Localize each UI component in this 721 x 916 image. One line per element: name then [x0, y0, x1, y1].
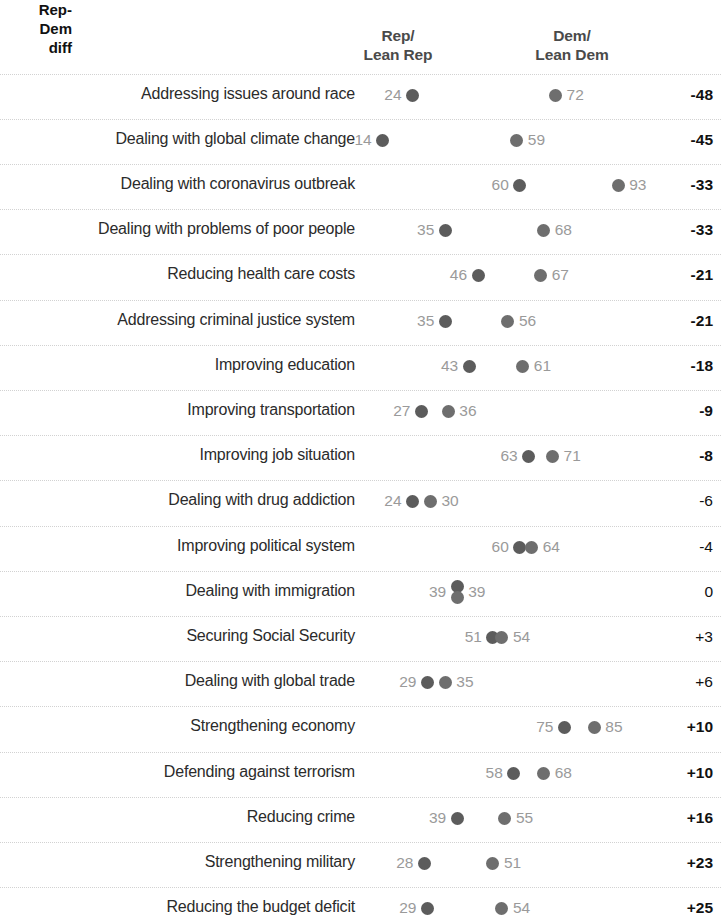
row-plot: 4667 — [0, 254, 640, 299]
value-label-dem: 59 — [528, 131, 545, 149]
diff-value: -45 — [641, 131, 713, 149]
value-label-rep: 14 — [0, 131, 372, 149]
dot-dem — [424, 495, 437, 508]
row-plot: 6371 — [0, 435, 640, 480]
value-label-dem: 39 — [468, 583, 485, 601]
diff-value: +25 — [641, 899, 713, 916]
diff-value: -33 — [641, 221, 713, 239]
value-label-rep: 24 — [0, 492, 402, 510]
row-plot: 2851 — [0, 842, 640, 887]
column-header-diff-line1: Rep- — [0, 0, 72, 19]
diff-value: -8 — [641, 447, 713, 465]
diff-value: +10 — [641, 718, 713, 736]
dot-dem — [525, 541, 538, 554]
dot-rep — [472, 269, 485, 282]
row-plot: 5154 — [0, 616, 640, 661]
diff-value: +16 — [641, 809, 713, 827]
value-label-dem: 72 — [567, 86, 584, 104]
value-label-rep: 39 — [0, 583, 446, 601]
column-header-dem-line1: Dem/ — [553, 27, 591, 44]
value-label-dem: 67 — [552, 266, 569, 284]
diff-value: -21 — [641, 312, 713, 330]
value-label-dem: 54 — [513, 628, 530, 646]
value-label-rep: 75 — [0, 718, 554, 736]
dot-rep — [421, 676, 434, 689]
diff-value: -48 — [641, 86, 713, 104]
value-label-dem: 68 — [555, 764, 572, 782]
diff-value: 0 — [641, 583, 713, 601]
value-label-rep: 24 — [0, 86, 402, 104]
dot-dem — [549, 89, 562, 102]
value-label-dem: 68 — [555, 221, 572, 239]
chart-row: Dealing with immigration39390 — [0, 571, 721, 616]
column-header-dem-line2: Lean Dem — [507, 45, 637, 64]
diff-value: -33 — [641, 176, 713, 194]
dot-dem — [546, 450, 559, 463]
value-label-rep: 46 — [0, 266, 467, 284]
diff-value: +6 — [641, 673, 713, 691]
chart-row: Strengthening military2851+23 — [0, 842, 721, 887]
row-plot: 2472 — [0, 74, 640, 119]
row-plot: 2954 — [0, 887, 640, 916]
value-label-dem: 85 — [605, 718, 622, 736]
chart-row: Improving education4361-18 — [0, 345, 721, 390]
dot-dem — [501, 315, 514, 328]
dot-dem — [495, 902, 508, 915]
value-label-rep: 35 — [0, 312, 434, 330]
value-label-dem: 64 — [543, 538, 560, 556]
dot-dem — [510, 134, 523, 147]
value-label-rep: 27 — [0, 402, 410, 420]
dot-rep — [522, 450, 535, 463]
diff-value: -4 — [641, 538, 713, 556]
value-label-dem: 35 — [456, 673, 473, 691]
value-label-rep: 39 — [0, 809, 446, 827]
value-label-rep: 28 — [0, 854, 413, 872]
column-header-rep: Rep/ Lean Rep — [333, 26, 463, 64]
dot-rep — [415, 405, 428, 418]
dot-dem — [486, 857, 499, 870]
diff-value: +23 — [641, 854, 713, 872]
dot-rep — [418, 857, 431, 870]
value-label-dem: 55 — [516, 809, 533, 827]
row-plot: 3568 — [0, 209, 640, 254]
value-label-rep: 29 — [0, 673, 416, 691]
dot-rep — [406, 89, 419, 102]
dot-rep — [451, 812, 464, 825]
column-header-dem: Dem/ Lean Dem — [507, 26, 637, 64]
value-label-dem: 56 — [519, 312, 536, 330]
chart-header: Rep/ Lean Rep Dem/ Lean Dem Rep- Dem dif… — [0, 0, 721, 70]
value-label-rep: 63 — [0, 447, 518, 465]
row-plot: 2935 — [0, 661, 640, 706]
column-header-rep-line1: Rep/ — [381, 27, 414, 44]
value-label-rep: 51 — [0, 628, 482, 646]
dot-rep — [513, 179, 526, 192]
value-label-rep: 43 — [0, 357, 458, 375]
row-plot: 6064 — [0, 526, 640, 571]
value-label-rep: 29 — [0, 899, 416, 916]
dot-rep — [439, 315, 452, 328]
row-plot: 3955 — [0, 797, 640, 842]
chart-row: Dealing with drug addiction2430-6 — [0, 480, 721, 525]
column-header-diff: Rep- Dem diff — [0, 0, 80, 57]
dot-rep — [558, 721, 571, 734]
diff-value: -9 — [641, 402, 713, 420]
chart-row: Improving transportation2736-9 — [0, 390, 721, 435]
dot-rep — [439, 224, 452, 237]
value-label-rep: 60 — [0, 538, 509, 556]
diff-value: -18 — [641, 357, 713, 375]
row-plot: 7585 — [0, 706, 640, 751]
dot-rep — [463, 360, 476, 373]
diff-value: -6 — [641, 492, 713, 510]
chart-row: Addressing criminal justice system3556-2… — [0, 300, 721, 345]
value-label-dem: 36 — [459, 402, 476, 420]
chart-row: Dealing with problems of poor people3568… — [0, 209, 721, 254]
column-header-diff-line2: Dem — [0, 19, 72, 38]
chart-row: Improving political system6064-4 — [0, 526, 721, 571]
value-label-dem: 51 — [504, 854, 521, 872]
dot-dem — [588, 721, 601, 734]
diff-value: +3 — [641, 628, 713, 646]
dot-dem — [495, 631, 508, 644]
value-label-rep: 60 — [0, 176, 509, 194]
row-plot: 6093 — [0, 164, 640, 209]
dot-dem — [498, 812, 511, 825]
